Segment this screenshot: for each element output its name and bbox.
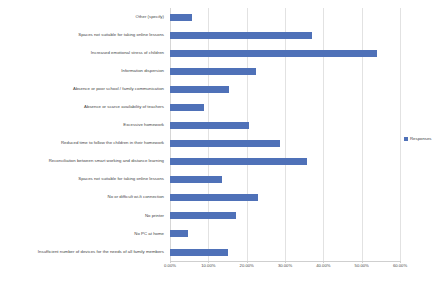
bar-row — [170, 153, 400, 171]
x-axis-tick-label: 40.00% — [316, 263, 330, 268]
category-label-cell: Absence or poor school / family communic… — [0, 80, 167, 98]
category-label: Insufficient number of devices for the n… — [38, 250, 164, 255]
bar-row — [170, 225, 400, 243]
category-label-cell: Reconciliation between smart working and… — [0, 153, 167, 171]
category-label: Spaces not suitable for taking online le… — [78, 177, 164, 182]
bar-series-responses — [170, 8, 400, 261]
category-label: No or difficult wi-fi connection — [108, 195, 164, 200]
category-label-cell: Absence or scarce availability of teache… — [0, 98, 167, 116]
category-label: Reconciliation between smart working and… — [49, 159, 164, 164]
x-axis-tick-label: 0.00% — [164, 263, 176, 268]
category-label-cell: Insufficient number of devices for the n… — [0, 243, 167, 261]
category-label: No printer — [145, 214, 164, 219]
bar — [170, 86, 229, 93]
bar — [170, 230, 188, 237]
bar-row — [170, 135, 400, 153]
category-label-cell: Increased emotional stress of children — [0, 44, 167, 62]
bar — [170, 249, 228, 256]
category-label-cell: No or difficult wi-fi connection — [0, 189, 167, 207]
x-axis-tick-label: 50.00% — [355, 263, 369, 268]
category-axis-labels: Other (specify)Spaces not suitable for t… — [0, 8, 167, 261]
bar — [170, 50, 377, 57]
category-label: Absence or scarce availability of teache… — [84, 105, 164, 110]
category-label: Other (specify) — [136, 15, 164, 20]
category-label-cell: Spaces not suitable for taking online le… — [0, 26, 167, 44]
category-label: No PC at home — [134, 232, 164, 237]
category-label: Absence or poor school / family communic… — [73, 87, 164, 92]
x-axis-tick-label: 60.00% — [393, 263, 407, 268]
category-label: Excessive homework — [123, 123, 164, 128]
category-label-cell: Information dispersion — [0, 62, 167, 80]
bar — [170, 140, 280, 147]
gridline — [400, 8, 401, 261]
legend-swatch-responses — [404, 137, 408, 141]
category-label: Reduced time to follow the children in t… — [61, 141, 164, 146]
category-label-cell: Spaces not suitable for taking online le… — [0, 171, 167, 189]
category-label: Increased emotional stress of children — [91, 51, 164, 56]
bar-row — [170, 171, 400, 189]
bar — [170, 158, 307, 165]
category-label: Information dispersion — [121, 69, 164, 74]
plot-area — [170, 8, 400, 261]
bar-row — [170, 189, 400, 207]
bar — [170, 32, 312, 39]
legend-label-responses: Responses — [410, 136, 432, 141]
category-label-cell: Reduced time to follow the children in t… — [0, 135, 167, 153]
x-axis-tick-label: 20.00% — [240, 263, 254, 268]
bar — [170, 68, 256, 75]
category-label-cell: Other (specify) — [0, 8, 167, 26]
bar-row — [170, 98, 400, 116]
bar — [170, 14, 192, 21]
bar-row — [170, 80, 400, 98]
category-label: Spaces not suitable for taking online le… — [78, 33, 164, 38]
bar-row — [170, 116, 400, 134]
bar — [170, 176, 222, 183]
chart-legend: Responses — [404, 136, 432, 141]
bar-row — [170, 207, 400, 225]
bar-row — [170, 26, 400, 44]
x-axis-tick-labels: 0.00%10.00%20.00%30.00%40.00%50.00%60.00… — [170, 263, 400, 275]
bar-row — [170, 62, 400, 80]
bar-row — [170, 8, 400, 26]
bar-chart: Other (specify)Spaces not suitable for t… — [0, 0, 448, 281]
bar-row — [170, 243, 400, 261]
x-axis-tick-label: 30.00% — [278, 263, 292, 268]
category-label-cell: Excessive homework — [0, 116, 167, 134]
bar-row — [170, 44, 400, 62]
bar — [170, 122, 249, 129]
bar — [170, 212, 236, 219]
x-axis-tick-label: 10.00% — [201, 263, 215, 268]
category-label-cell: No printer — [0, 207, 167, 225]
bar — [170, 104, 204, 111]
category-label-cell: No PC at home — [0, 225, 167, 243]
bar — [170, 194, 258, 201]
